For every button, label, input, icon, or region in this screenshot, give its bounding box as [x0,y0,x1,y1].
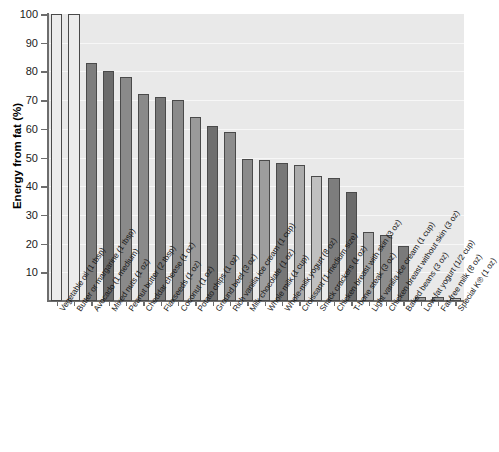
y-axis-tick [41,43,48,45]
x-axis-tick [126,301,127,306]
y-axis-tick [41,158,48,160]
y-axis-tick-label: 60 [0,123,38,135]
y-axis-tick-label: 40 [0,180,38,192]
y-axis-tick [41,272,48,274]
y-axis-tick-label: 20 [0,238,38,250]
bar [311,176,322,301]
bar [259,160,270,301]
bar [120,77,131,301]
bar [103,71,114,301]
x-axis-tick [230,301,231,306]
bar [380,235,391,301]
x-axis-tick [334,301,335,306]
y-axis-tick-label: 90 [0,37,38,49]
bar [138,94,149,301]
x-axis-tick [74,301,75,306]
bar [346,192,357,301]
bar [224,132,235,301]
x-axis-tick [455,301,456,306]
x-axis-tick [247,301,248,306]
bar [398,246,409,301]
y-axis-tick [41,14,48,16]
x-axis-tick [317,301,318,306]
y-axis-tick [41,186,48,188]
bar [276,163,287,301]
x-axis-tick [143,301,144,306]
x-axis-tick [299,301,300,306]
y-axis-tick-label: 30 [0,209,38,221]
x-axis-tick [91,301,92,306]
x-axis-tick [109,301,110,306]
bar [190,117,201,301]
x-axis-tick [195,301,196,306]
x-axis-tick [57,301,58,306]
x-axis-tick [265,301,266,306]
bar [207,126,218,301]
x-axis-tick [369,301,370,306]
x-axis-tick [421,301,422,306]
y-axis-tick-label: 50 [0,152,38,164]
x-axis-tick [438,301,439,306]
y-axis-tick-label: 80 [0,65,38,77]
x-axis-tick [282,301,283,306]
y-axis-tick-label: 10 [0,266,38,278]
bar-series [48,14,464,301]
x-axis-tick [386,301,387,306]
bar [242,159,253,301]
bar [363,232,374,301]
x-axis-tick [161,301,162,306]
y-axis-tick [41,244,48,246]
y-axis-tick [41,100,48,102]
bar [155,97,166,301]
bar [294,165,305,301]
bar [328,178,339,301]
y-axis-tick-label: 70 [0,94,38,106]
y-axis-tick [41,129,48,131]
y-axis-tick-label: 100 [0,8,38,20]
x-axis-tick [351,301,352,306]
bar [68,14,79,301]
y-axis-tick [41,71,48,73]
bar [51,14,62,301]
bar [172,100,183,301]
bar [86,63,97,301]
x-axis-tick [178,301,179,306]
y-axis-tick [41,215,48,217]
x-axis-tick [403,301,404,306]
x-axis-tick [213,301,214,306]
